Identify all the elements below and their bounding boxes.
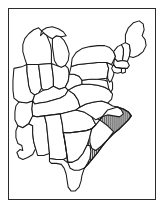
figure-root: Eastern United States outline map Black … — [0, 0, 165, 210]
map-frame — [8, 8, 156, 200]
state-new-york — [71, 46, 115, 67]
state-indiana — [39, 63, 54, 90]
map-svg — [9, 9, 155, 199]
state-michigan-lower — [52, 36, 69, 68]
state-rhode-island — [121, 68, 125, 73]
state-outlines-group — [13, 21, 146, 191]
